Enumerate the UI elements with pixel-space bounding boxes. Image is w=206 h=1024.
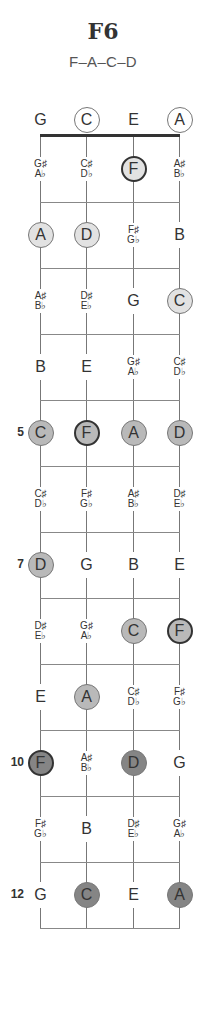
note-label: G [74,552,100,578]
note-label: G [167,750,193,776]
chord-tone-marker: D [74,222,100,248]
note-flat-label: E♭ [35,631,47,641]
chord-tone-marker: A [28,222,54,248]
note-flat-label: G♭ [127,235,140,245]
note-enharmonic: D♯E♭ [167,487,193,511]
note-flat-label: B♭ [174,169,186,179]
fret-number-label: 12 [11,887,24,901]
note-enharmonic: F♯G♭ [74,487,100,511]
note-label: B [167,222,193,248]
note-flat-label: A♭ [174,829,186,839]
note-enharmonic: C♯D♭ [74,157,100,181]
note-label: E [121,107,147,133]
note-enharmonic: G♯A♭ [74,619,100,643]
chord-tone-marker: C [28,420,54,446]
fret-line [40,598,180,599]
chord-tone-marker: A [167,107,193,133]
chord-tone-marker: A [74,684,100,710]
note-flat-label: E♭ [174,499,186,509]
chord-tone-marker: C [121,618,147,644]
note-enharmonic: F♯G♭ [167,685,193,709]
fret-line [40,730,180,731]
note-flat-label: G♭ [80,499,93,509]
fret-line [40,466,180,467]
note-flat-label: B♭ [35,301,47,311]
fret-line [40,268,180,269]
fret-line [40,334,180,335]
note-flat-label: D♭ [80,169,92,179]
chord-tone-marker: C [74,107,100,133]
chord-tone-root-marker: F [167,618,193,644]
note-label: E [28,684,54,710]
note-enharmonic: C♯D♭ [28,487,54,511]
note-flat-label: A♭ [81,631,93,641]
note-enharmonic: C♯D♭ [167,355,193,379]
note-flat-label: A♭ [128,367,140,377]
note-flat-label: B♭ [81,763,93,773]
chord-tone-marker: D [121,750,147,776]
note-label: G [121,288,147,314]
chord-tone-root-marker: F [121,156,147,182]
chord-tone-root-marker: F [28,750,54,776]
note-flat-label: E♭ [128,829,140,839]
fret-line [40,928,180,929]
note-label: E [121,882,147,908]
note-label: B [74,816,100,842]
fret-line [40,202,180,203]
chord-tone-marker: C [167,288,193,314]
note-enharmonic: A♯B♭ [167,157,193,181]
note-flat-label: G♭ [173,697,186,707]
note-label: E [74,354,100,380]
chord-tone-marker: D [28,552,54,578]
fret-line [40,862,180,863]
note-enharmonic: G♯A♭ [167,817,193,841]
note-flat-label: A♭ [35,169,47,179]
note-enharmonic: D♯E♭ [121,817,147,841]
fret-line [40,532,180,533]
nut [40,134,180,137]
note-enharmonic: C♯D♭ [121,685,147,709]
note-enharmonic: A♯B♭ [74,751,100,775]
fretboard-diagram: GCEAG♯A♭C♯D♭FA♯B♭ADF♯G♭BA♯B♭D♯E♭GCBEG♯A♭… [0,0,206,1024]
note-enharmonic: D♯E♭ [28,619,54,643]
fret-line [40,664,180,665]
fret-line [40,400,180,401]
note-flat-label: G♭ [34,829,47,839]
fret-line [40,796,180,797]
note-flat-label: D♭ [34,499,46,509]
note-flat-label: D♭ [127,697,139,707]
note-label: B [28,354,54,380]
chord-tone-marker: A [167,882,193,908]
fret-number-label: 5 [17,425,24,439]
note-flat-label: D♭ [173,367,185,377]
note-label: B [121,552,147,578]
chord-tone-marker: D [167,420,193,446]
chord-tone-root-marker: F [74,420,100,446]
note-label: E [167,552,193,578]
note-enharmonic: D♯E♭ [74,289,100,313]
fret-number-label: 7 [17,557,24,571]
note-enharmonic: F♯G♭ [121,223,147,247]
chord-tone-marker: A [121,420,147,446]
note-flat-label: E♭ [81,301,93,311]
note-label: G [28,882,54,908]
note-enharmonic: A♯B♭ [121,487,147,511]
note-enharmonic: G♯A♭ [28,157,54,181]
chord-tone-marker: C [74,882,100,908]
note-enharmonic: F♯G♭ [28,817,54,841]
note-enharmonic: G♯A♭ [121,355,147,379]
note-flat-label: B♭ [128,499,140,509]
fret-number-label: 10 [11,755,24,769]
note-enharmonic: A♯B♭ [28,289,54,313]
note-label: G [28,107,54,133]
